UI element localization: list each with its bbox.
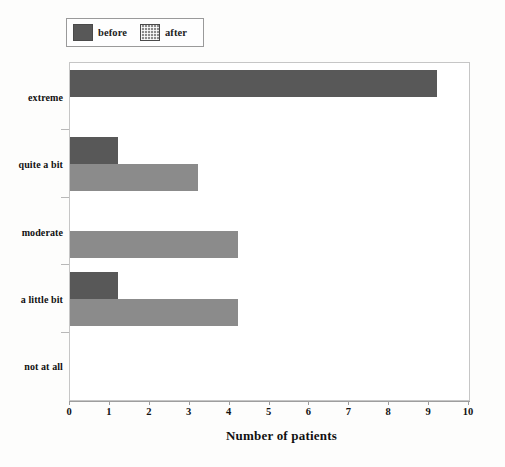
x-axis-tick bbox=[348, 401, 349, 405]
category-band bbox=[70, 63, 469, 130]
x-axis-tick-label-10: 10 bbox=[463, 406, 474, 417]
y-axis-label-extreme: extreme bbox=[28, 91, 63, 102]
y-axis-tick bbox=[61, 264, 69, 265]
y-axis-tick bbox=[61, 332, 69, 333]
x-axis-tick bbox=[69, 401, 70, 405]
x-axis-tick bbox=[269, 401, 270, 405]
plot-area bbox=[70, 63, 469, 400]
bar-after-moderate bbox=[70, 231, 238, 258]
y-axis-label-a-little-bit: a little bit bbox=[21, 293, 63, 304]
x-axis-tick-label-2: 2 bbox=[146, 406, 151, 417]
chart-legend: before after bbox=[66, 18, 204, 47]
legend-swatch-after-icon bbox=[140, 24, 160, 41]
x-axis-tick-label-5: 5 bbox=[266, 406, 271, 417]
bar-before-extreme bbox=[70, 70, 437, 97]
y-axis-label-not-at-all: not at all bbox=[24, 361, 63, 372]
legend-entry-after: after bbox=[140, 24, 187, 41]
x-axis-tick bbox=[308, 401, 309, 405]
y-axis-label-moderate: moderate bbox=[22, 226, 63, 237]
category-band bbox=[70, 130, 469, 197]
x-axis-tick-label-1: 1 bbox=[106, 406, 111, 417]
legend-label-after: after bbox=[165, 27, 187, 38]
x-axis-tick bbox=[428, 401, 429, 405]
plot-area-frame bbox=[69, 62, 470, 401]
legend-swatch-before-icon bbox=[73, 24, 93, 41]
x-axis-tick-label-7: 7 bbox=[346, 406, 351, 417]
x-axis-tick-label-0: 0 bbox=[66, 406, 71, 417]
y-axis-tick bbox=[61, 197, 69, 198]
category-band bbox=[70, 265, 469, 332]
legend-entry-before: before bbox=[73, 24, 127, 41]
x-axis-title: Number of patients bbox=[0, 428, 505, 444]
category-band bbox=[70, 198, 469, 265]
category-band bbox=[70, 333, 469, 400]
x-axis-tick-label-9: 9 bbox=[425, 406, 430, 417]
x-axis-tick bbox=[109, 401, 110, 405]
x-axis-tick bbox=[189, 401, 190, 405]
bar-before-a-little-bit bbox=[70, 272, 118, 299]
x-axis-tick bbox=[229, 401, 230, 405]
bar-chart-figure: before after not at alla little bitmoder… bbox=[0, 0, 505, 467]
x-axis-tick-label-6: 6 bbox=[306, 406, 311, 417]
bar-after-quite-a-bit bbox=[70, 164, 198, 191]
x-axis-tick-label-4: 4 bbox=[226, 406, 231, 417]
x-axis-title-text: Number of patients bbox=[226, 428, 337, 443]
x-axis-tick-label-3: 3 bbox=[186, 406, 191, 417]
x-axis-tick bbox=[468, 401, 469, 405]
bar-before-quite-a-bit bbox=[70, 137, 118, 164]
bar-after-a-little-bit bbox=[70, 299, 238, 326]
y-axis-tick bbox=[61, 129, 69, 130]
legend-label-before: before bbox=[98, 27, 127, 38]
x-axis-tick bbox=[149, 401, 150, 405]
x-axis-line bbox=[69, 401, 470, 402]
x-axis-tick bbox=[388, 401, 389, 405]
y-axis-label-quite-a-bit: quite a bit bbox=[19, 159, 63, 170]
y-axis: not at alla little bitmoderatequite a bi… bbox=[0, 62, 63, 401]
x-axis-tick-label-8: 8 bbox=[386, 406, 391, 417]
